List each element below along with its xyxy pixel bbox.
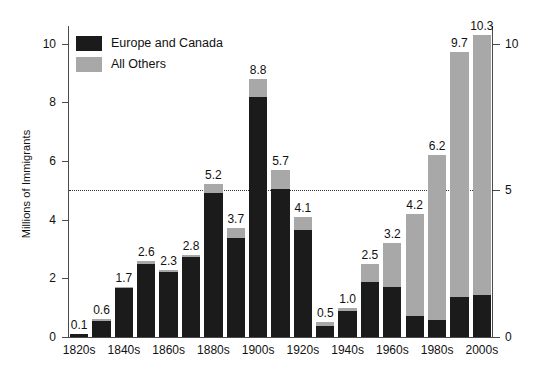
- bar-segment-all-others: [204, 184, 222, 192]
- bar-segment-europe-and-canada: [159, 272, 177, 337]
- immigration-bar-chart: Millions of Immigrants 0246810 0510 1820…: [0, 0, 544, 373]
- bar-segment-all-others: [294, 217, 312, 230]
- y-tick-right-mark: [493, 337, 500, 338]
- y-axis-title: Millions of Immigrants: [20, 84, 32, 284]
- bar-value-label-1880s: 5.2: [196, 169, 230, 181]
- y-tick-right-mark: [493, 44, 500, 45]
- bar-1820s: [70, 334, 88, 337]
- y-tick-right-label: 0: [505, 331, 541, 343]
- bar-value-label-1960s: 3.2: [375, 228, 409, 240]
- bar-segment-europe-and-canada: [316, 326, 334, 337]
- y-tick-left-label: 8: [16, 96, 56, 108]
- bar-segment-all-others: [271, 170, 289, 190]
- y-tick-right-label: 5: [505, 184, 541, 196]
- legend-item-all-others: All Others: [76, 57, 223, 72]
- x-tick-label-1820s: 1820s: [54, 344, 104, 357]
- x-tick-label-1880s: 1880s: [188, 344, 238, 357]
- bar-segment-all-others: [473, 35, 491, 295]
- bar-1890s: [227, 228, 245, 337]
- bar-segment-europe-and-canada: [70, 334, 88, 337]
- bar-value-label-1940s: 1.0: [330, 293, 364, 305]
- bar-value-label-1980s: 6.2: [420, 140, 454, 152]
- bar-value-label-1840s: 1.7: [107, 272, 141, 284]
- x-axis-line: [68, 337, 493, 338]
- bar-segment-all-others: [428, 155, 446, 320]
- bar-value-label-2000s: 10.3: [465, 20, 499, 32]
- bar-2000s: [473, 35, 491, 337]
- x-tick-label-1860s: 1860s: [144, 344, 194, 357]
- legend-label-all-others: All Others: [111, 58, 166, 71]
- x-tick-label-1940s: 1940s: [323, 344, 373, 357]
- legend-item-europe-and-canada: Europe and Canada: [76, 36, 223, 51]
- bar-segment-europe-and-canada: [383, 287, 401, 337]
- bar-segment-all-others: [450, 52, 468, 296]
- bar-segment-europe-and-canada: [428, 320, 446, 337]
- bar-segment-all-others: [361, 264, 379, 282]
- bar-1860s: [159, 270, 177, 337]
- bar-segment-europe-and-canada: [473, 295, 491, 337]
- bar-value-label-1890s: 3.7: [219, 213, 253, 225]
- bar-segment-europe-and-canada: [182, 257, 200, 337]
- legend-label-europe-and-canada: Europe and Canada: [111, 37, 223, 50]
- y-tick-left-label: 6: [16, 155, 56, 167]
- bar-segment-europe-and-canada: [294, 230, 312, 337]
- x-tick-label-2000s: 2000s: [457, 344, 507, 357]
- y-tick-left-label: 2: [16, 272, 56, 284]
- x-tick-label-1840s: 1840s: [99, 344, 149, 357]
- bar-value-label-1870s: 2.8: [174, 240, 208, 252]
- bar-1870s: [182, 255, 200, 337]
- bar-1900s: [249, 79, 267, 337]
- bar-value-label-1900s: 8.8: [241, 64, 275, 76]
- bar-value-label-1970s: 4.2: [398, 199, 432, 211]
- bar-segment-all-others: [249, 79, 267, 97]
- x-tick-label-1900s: 1900s: [233, 344, 283, 357]
- chart-legend: Europe and Canada All Others: [76, 36, 223, 78]
- bar-value-label-1930s: 0.5: [308, 307, 342, 319]
- bar-1910s: [271, 170, 289, 337]
- bar-segment-europe-and-canada: [227, 238, 245, 337]
- x-tick-label-1920s: 1920s: [278, 344, 328, 357]
- y-tick-left-mark: [62, 337, 69, 338]
- bar-value-label-1920s: 4.1: [286, 202, 320, 214]
- bar-value-label-1830s: 0.6: [84, 304, 118, 316]
- y-tick-left-label: 0: [16, 331, 56, 343]
- bar-1980s: [428, 155, 446, 337]
- bar-1930s: [316, 322, 334, 337]
- bar-segment-europe-and-canada: [450, 297, 468, 337]
- bar-1990s: [450, 52, 468, 337]
- bar-1880s: [204, 184, 222, 337]
- y-tick-left-label: 4: [16, 214, 56, 226]
- bar-value-label-1990s: 9.7: [442, 37, 476, 49]
- bar-segment-europe-and-canada: [406, 316, 424, 337]
- y-tick-right-label: 10: [505, 38, 541, 50]
- legend-swatch-icon-europe-and-canada: [76, 36, 102, 51]
- bar-value-label-1950s: 2.5: [353, 249, 387, 261]
- x-tick-label-1960s: 1960s: [367, 344, 417, 357]
- bar-value-label-1910s: 5.7: [263, 155, 297, 167]
- y-tick-right-mark: [493, 190, 500, 191]
- legend-swatch-icon-all-others: [76, 57, 102, 72]
- x-tick-label-1980s: 1980s: [412, 344, 462, 357]
- bar-segment-europe-and-canada: [361, 282, 379, 337]
- bar-value-label-1820s: 0.1: [62, 319, 96, 331]
- bar-segment-all-others: [227, 228, 245, 237]
- bar-value-label-1860s: 2.3: [151, 255, 185, 267]
- y-tick-left-label: 10: [16, 38, 56, 50]
